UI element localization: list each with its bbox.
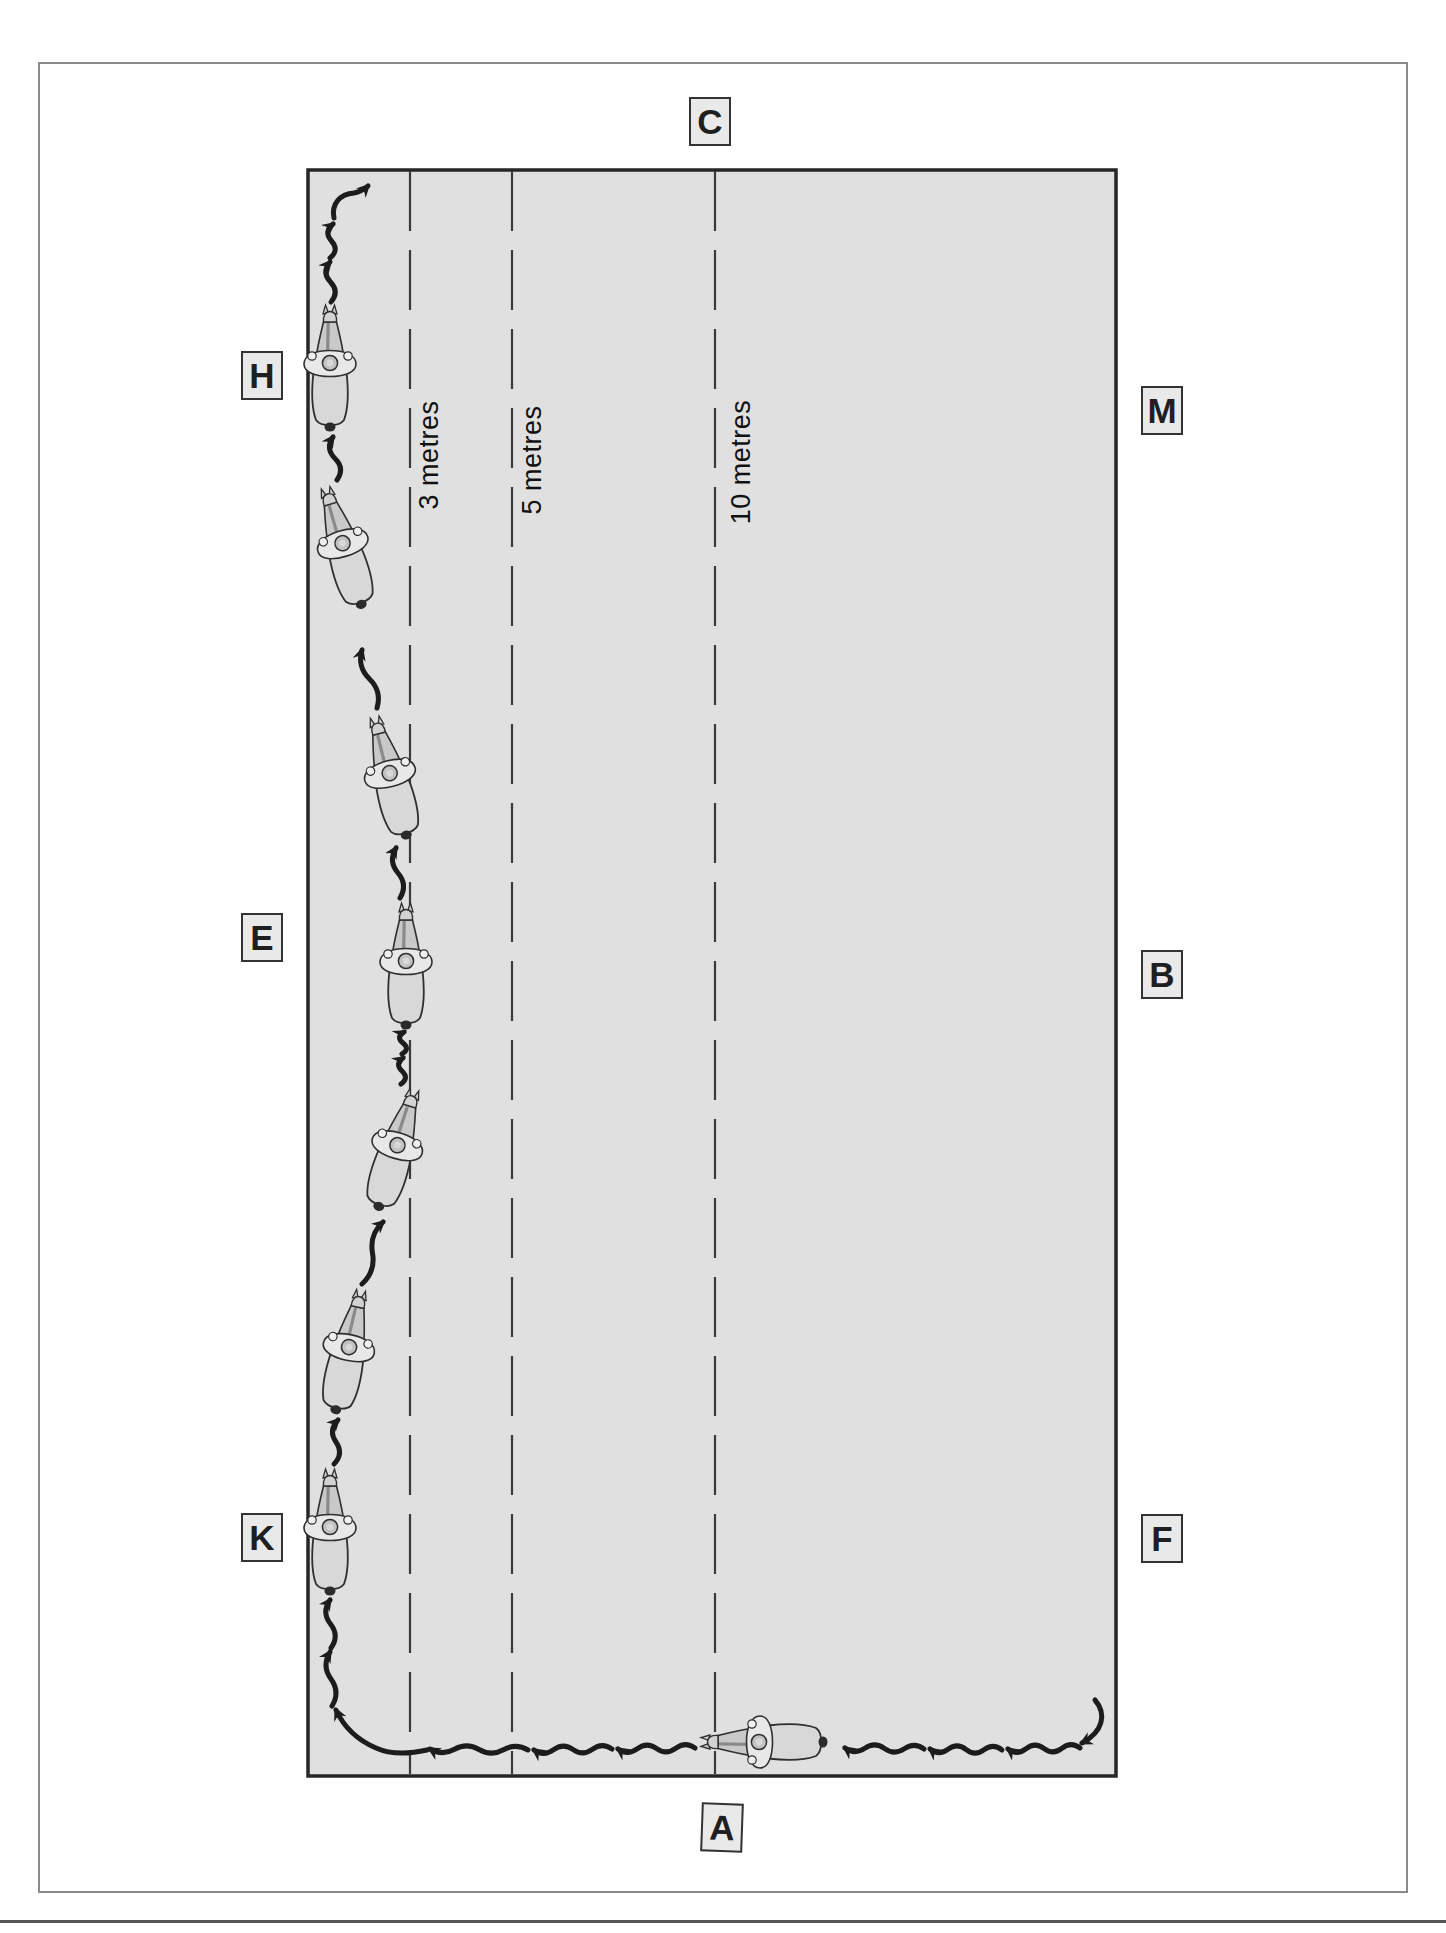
marker-letter: A — [709, 1809, 735, 1845]
marker-letter: E — [250, 920, 273, 955]
arena-marker-h: H — [241, 351, 283, 400]
arena-marker-a: A — [700, 1802, 744, 1852]
arena-marker-k: K — [241, 1513, 283, 1562]
distance-label-5m: 5 metres — [517, 405, 548, 514]
arena-marker-c: C — [689, 97, 731, 146]
arena-marker-f: F — [1141, 1514, 1183, 1563]
arena-figure — [0, 0, 1446, 1933]
arena-marker-m: M — [1141, 386, 1183, 435]
distance-label-3m: 3 metres — [414, 400, 445, 509]
marker-letter: F — [1151, 1521, 1172, 1556]
arena-marker-b: B — [1141, 950, 1183, 999]
distance-label-10m: 10 metres — [726, 400, 757, 525]
marker-letter: K — [249, 1520, 274, 1555]
marker-letter: C — [697, 104, 722, 139]
marker-letter: H — [249, 358, 274, 393]
marker-letter: B — [1149, 957, 1174, 992]
footer-rule — [0, 1920, 1446, 1923]
arena-marker-e: E — [241, 913, 283, 962]
marker-letter: M — [1147, 393, 1176, 428]
